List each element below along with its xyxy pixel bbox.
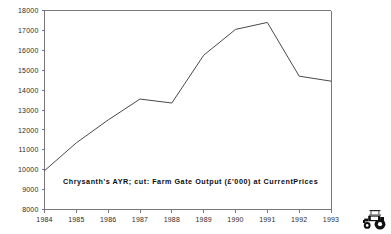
line-chart: 8000900010000110001200013000140001500016… xyxy=(0,0,391,234)
y-tick-label: 12000 xyxy=(18,127,38,134)
y-tick-label: 15000 xyxy=(18,67,38,74)
x-tick-label: 1988 xyxy=(164,216,180,223)
x-tick-label: 1989 xyxy=(195,216,211,223)
x-tick-label: 1991 xyxy=(259,216,275,223)
chart-container: 8000900010000110001200013000140001500016… xyxy=(0,0,391,234)
y-tick-label: 18000 xyxy=(18,7,38,14)
tractor-icon xyxy=(360,206,388,232)
x-tick-label: 1993 xyxy=(323,216,339,223)
y-tick-label: 10000 xyxy=(18,166,38,173)
y-tick-label: 16000 xyxy=(18,47,38,54)
y-tick-label: 11000 xyxy=(19,146,39,153)
chart-background xyxy=(0,0,391,234)
x-tick-label: 1990 xyxy=(227,216,243,223)
y-tick-label: 9000 xyxy=(22,186,38,193)
x-tick-label: 1985 xyxy=(68,216,84,223)
x-tick-label: 1987 xyxy=(132,216,148,223)
y-tick-label: 8000 xyxy=(22,206,38,213)
chart-subtitle: Chrysanth's AYR; cut: Farm Gate Output (… xyxy=(63,177,318,186)
y-tick-label: 14000 xyxy=(18,87,38,94)
y-tick-label: 17000 xyxy=(18,27,38,34)
y-tick-label: 13000 xyxy=(18,107,38,114)
x-tick-label: 1992 xyxy=(291,216,307,223)
x-tick-label: 1984 xyxy=(36,216,52,223)
x-tick-label: 1986 xyxy=(100,216,116,223)
